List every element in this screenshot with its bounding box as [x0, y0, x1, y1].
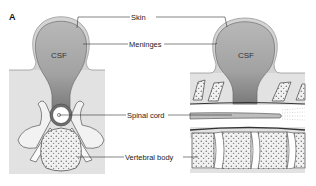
right-sagittal-section: CSF [190, 18, 305, 173]
panel-label: A [9, 12, 16, 22]
label-meninges: Meninges [129, 40, 162, 49]
spinal-cord-right [190, 113, 282, 119]
csf-label-left: CSF [51, 51, 67, 60]
vertebral-body-left [41, 128, 82, 171]
label-spinal-cord: Spinal cord [127, 111, 165, 120]
meningocele-diagram: A CSF CSF [0, 0, 316, 186]
anterior-tissue [190, 169, 305, 173]
left-cross-section: CSF [9, 17, 105, 174]
csf-label-right: CSF [238, 51, 254, 60]
label-vertebral-body: Vertebral body [125, 153, 174, 162]
label-skin: Skin [131, 13, 146, 22]
